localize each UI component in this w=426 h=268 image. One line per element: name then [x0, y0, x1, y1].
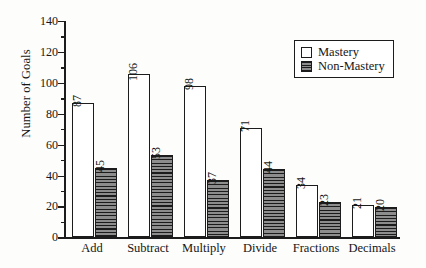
bar-value-label: 20	[374, 199, 386, 211]
y-tick-label-60: 60	[28, 139, 58, 151]
y-tick-label-120: 120	[28, 46, 58, 58]
y-tick-label-20: 20	[28, 200, 58, 212]
bar-value-label: 21	[351, 197, 363, 209]
bar-value-label: 34	[295, 177, 307, 189]
legend-entry-mastery: Mastery	[301, 45, 385, 59]
bar-value-label: 23	[318, 194, 330, 206]
chart-legend: Mastery Non-Mastery	[294, 40, 394, 78]
bar-value-label: 37	[206, 172, 218, 184]
bar-add-mastery: 87	[72, 103, 94, 237]
x-tick-label-multiply: Multiply	[176, 242, 232, 255]
x-tick-label-subtract: Subtract	[120, 242, 176, 255]
y-tick-label-80: 80	[28, 108, 58, 120]
bar-fractions-non-mastery: 23	[319, 202, 341, 238]
bar-value-label: 45	[94, 160, 106, 172]
bar-value-label: 87	[71, 95, 83, 107]
bar-value-label: 98	[183, 78, 195, 90]
bar-group-add: 8745	[72, 16, 117, 237]
bar-subtract-mastery: 106	[128, 74, 150, 238]
bar-decimals-mastery: 21	[352, 205, 374, 237]
bar-group-multiply: 9837	[184, 16, 229, 237]
bar-subtract-non-mastery: 53	[151, 155, 173, 237]
legend-label-mastery: Mastery	[318, 46, 359, 59]
bar-value-label: 44	[262, 161, 274, 173]
bar-decimals-non-mastery: 20	[375, 207, 397, 238]
bar-divide-mastery: 71	[240, 128, 262, 238]
y-tick-label-100: 100	[28, 77, 58, 89]
bar-multiply-mastery: 98	[184, 86, 206, 237]
legend-label-non-mastery: Non-Mastery	[318, 60, 385, 73]
x-axis-tick-labels: AddSubtractMultiplyDivideFractionsDecima…	[64, 242, 400, 262]
bar-group-divide: 7144	[240, 16, 285, 237]
bar-chart: Number of Goals 020406080100120140 87451…	[0, 0, 426, 268]
x-tick-label-fractions: Fractions	[288, 242, 344, 255]
bar-divide-non-mastery: 44	[263, 169, 285, 237]
bar-value-label: 106	[127, 63, 139, 81]
y-tick-label-40: 40	[28, 170, 58, 182]
x-tick-label-add: Add	[64, 242, 120, 255]
y-axis-tick-labels: 020406080100120140	[28, 0, 58, 268]
bar-add-non-mastery: 45	[95, 168, 117, 238]
x-tick-label-decimals: Decimals	[344, 242, 400, 255]
bar-value-label: 53	[150, 147, 162, 159]
y-tick-label-140: 140	[28, 15, 58, 27]
legend-entry-non-mastery: Non-Mastery	[301, 59, 385, 73]
y-tick-label-0: 0	[28, 231, 58, 243]
bar-value-label: 71	[239, 120, 251, 132]
bar-group-subtract: 10653	[128, 16, 173, 237]
x-tick-label-divide: Divide	[232, 242, 288, 255]
legend-swatch-mastery-icon	[301, 47, 312, 58]
bar-multiply-non-mastery: 37	[207, 180, 229, 237]
legend-swatch-non-mastery-icon	[301, 61, 312, 72]
bar-fractions-mastery: 34	[296, 185, 318, 238]
